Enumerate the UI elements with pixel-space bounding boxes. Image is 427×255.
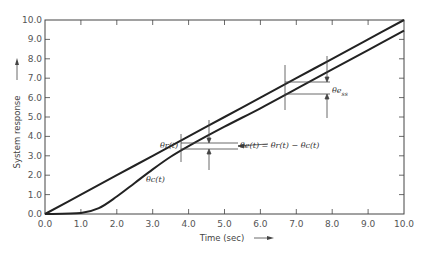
y-tick-label: 4.0: [28, 131, 43, 141]
y-tick-label: 7.0: [28, 73, 43, 83]
label-error-equation: θe(t) = θr(t) − θc(t): [240, 141, 319, 150]
x-tick-label: 0.0: [38, 219, 53, 229]
y-axis-arrow: [15, 58, 19, 80]
y-tick-label: 3.0: [28, 151, 43, 161]
series-theta-r: [45, 20, 404, 214]
y-tick-label: 9.0: [28, 34, 43, 44]
x-axis-arrow: [254, 236, 274, 240]
y-tick-label: 8.0: [28, 54, 43, 64]
x-tick-label: 6.0: [253, 219, 268, 229]
label-theta-c: θc(t): [146, 175, 165, 184]
y-tick-label: 2.0: [28, 170, 43, 180]
y-axis-title: System response: [12, 95, 22, 168]
x-tick-label: 10.0: [394, 219, 414, 229]
y-tick-label: 10.0: [22, 15, 42, 25]
series-theta-c: [45, 31, 404, 214]
x-tick-label: 8.0: [325, 219, 340, 229]
x-tick-label: 7.0: [289, 219, 304, 229]
x-tick-label: 3.0: [146, 219, 161, 229]
x-tick-label: 4.0: [181, 219, 196, 229]
x-tick-label: 5.0: [217, 219, 232, 229]
y-tick-label: 0.0: [28, 209, 43, 219]
y-tick-label: 1.0: [28, 190, 43, 200]
error-marker-steady-state: [285, 56, 330, 118]
chart: 0.01.02.03.04.05.06.07.08.09.010.00.01.0…: [0, 0, 427, 255]
y-tick-label: 6.0: [28, 93, 43, 103]
y-tick-label: 5.0: [28, 112, 43, 122]
x-tick-label: 2.0: [110, 219, 125, 229]
label-theta-r: θr(t): [160, 141, 178, 150]
label-steady-state-error: θess: [332, 86, 348, 97]
x-tick-label: 9.0: [361, 219, 376, 229]
x-tick-label: 1.0: [74, 219, 89, 229]
x-axis-title: Time (sec): [199, 233, 244, 243]
